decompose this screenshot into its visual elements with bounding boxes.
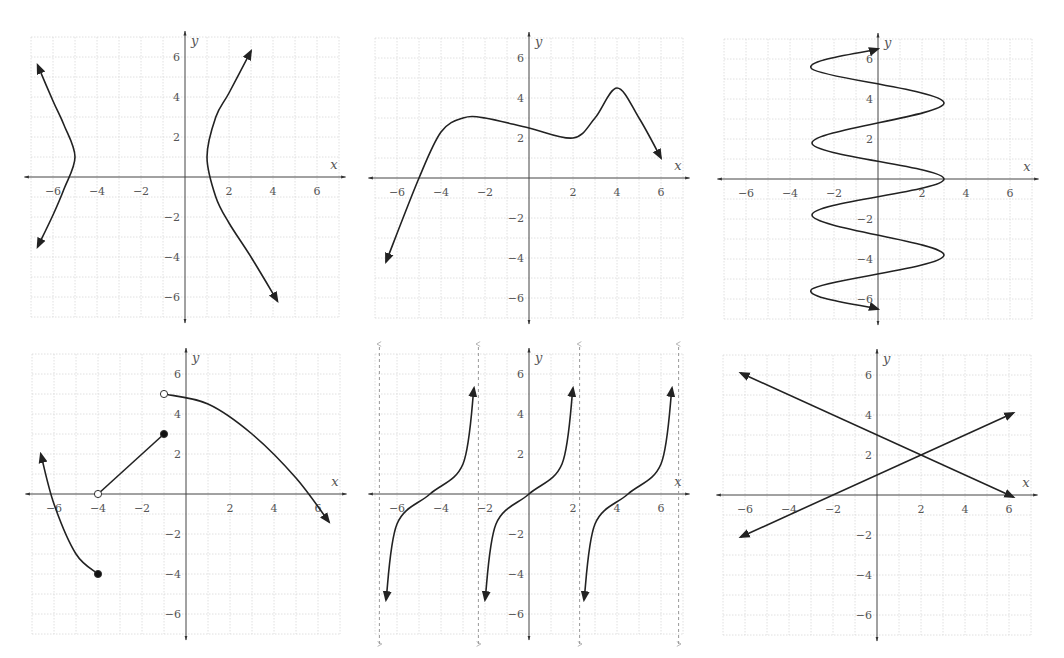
curve	[98, 434, 164, 494]
x-tick-label: −4	[89, 185, 105, 198]
x-tick-label: 4	[963, 187, 970, 200]
x-tick-label: −6	[389, 186, 405, 199]
y-tick-label: 6	[174, 368, 181, 381]
y-axis-label: y	[534, 34, 543, 49]
y-tick-label: 6	[517, 52, 524, 65]
y-tick-label: −4	[856, 569, 872, 582]
x-tick-label: 2	[570, 186, 577, 199]
x-tick-label: −4	[782, 187, 798, 200]
curve	[164, 394, 329, 522]
curve	[38, 65, 75, 247]
x-tick-label: −4	[433, 502, 449, 515]
x-tick-label: −6	[389, 502, 405, 515]
y-tick-label: 2	[866, 133, 873, 146]
x-tick-label: 6	[658, 502, 665, 515]
curve	[386, 88, 661, 262]
graph-panel-A: −6−4−2246642−2−4−6xy	[24, 31, 345, 323]
y-tick-label: 6	[866, 53, 873, 66]
x-tick-label: 4	[271, 502, 278, 515]
x-tick-label: 4	[962, 503, 969, 516]
x-tick-label: −2	[826, 187, 842, 200]
y-tick-label: −2	[165, 528, 181, 541]
y-tick-label: −6	[165, 608, 181, 621]
x-tick-label: 6	[1007, 187, 1014, 200]
x-axis-label: x	[1023, 159, 1031, 174]
x-axis-label: x	[331, 474, 339, 489]
x-axis-label: x	[330, 157, 338, 172]
y-tick-label: −4	[164, 251, 180, 264]
x-tick-label: 4	[614, 186, 621, 199]
y-tick-label: 4	[173, 91, 180, 104]
x-tick-label: 4	[270, 185, 277, 198]
curve	[207, 51, 277, 301]
y-tick-label: −2	[508, 212, 524, 225]
closed-point	[94, 570, 101, 577]
x-tick-label: −6	[45, 185, 61, 198]
y-tick-label: 4	[517, 408, 524, 421]
open-point	[94, 490, 101, 497]
x-tick-label: −4	[433, 186, 449, 199]
y-tick-label: 4	[517, 92, 524, 105]
x-tick-label: 2	[227, 502, 234, 515]
y-tick-label: 4	[865, 409, 872, 422]
graph-panel-B: −6−4−2246642−2−4−6xy	[368, 32, 689, 324]
x-tick-label: −6	[737, 503, 753, 516]
x-tick-label: 6	[314, 185, 321, 198]
y-axis-label: y	[534, 350, 543, 365]
x-tick-label: −4	[781, 503, 797, 516]
graph-panel-E: −6−4−2246642−2−4−6xy	[368, 344, 689, 644]
y-tick-label: 6	[173, 51, 180, 64]
x-tick-label: −2	[477, 186, 493, 199]
y-tick-label: −6	[856, 609, 872, 622]
graph-panel-D: −6−4−2246642−2−4−6xy	[25, 348, 346, 640]
y-tick-label: 2	[517, 132, 524, 145]
y-tick-label: 4	[866, 93, 873, 106]
y-tick-label: −4	[857, 253, 873, 266]
y-tick-label: −4	[508, 568, 524, 581]
graph-panel-C: −6−4−2246642−2−4−6xy	[717, 33, 1038, 325]
y-tick-label: −2	[856, 529, 872, 542]
y-axis-label: y	[191, 350, 200, 365]
x-tick-label: −2	[134, 502, 150, 515]
y-tick-label: −4	[508, 252, 524, 265]
x-tick-label: −2	[477, 502, 493, 515]
y-tick-label: −6	[164, 291, 180, 304]
x-tick-label: 6	[1006, 503, 1013, 516]
y-tick-label: 6	[865, 369, 872, 382]
y-tick-label: 4	[174, 408, 181, 421]
graph-panel-F: −6−4−2246642−2−4−6xy	[716, 349, 1037, 641]
y-tick-label: 6	[517, 368, 524, 381]
y-tick-label: −6	[857, 293, 873, 306]
y-tick-label: −2	[508, 528, 524, 541]
x-tick-label: 6	[658, 186, 665, 199]
x-tick-label: −2	[133, 185, 149, 198]
x-tick-label: −2	[825, 503, 841, 516]
y-tick-label: −2	[164, 211, 180, 224]
x-tick-label: 2	[570, 502, 577, 515]
x-axis-label: x	[674, 158, 682, 173]
y-tick-label: −6	[508, 608, 524, 621]
y-tick-label: 2	[173, 131, 180, 144]
y-tick-label: −2	[857, 213, 873, 226]
x-axis-label: x	[1022, 475, 1030, 490]
y-axis-label: y	[883, 35, 892, 50]
y-axis-label: y	[882, 351, 891, 366]
x-tick-label: 2	[226, 185, 233, 198]
y-tick-label: 2	[517, 448, 524, 461]
graphs-grid: −6−4−2246642−2−4−6xy−6−4−2246642−2−4−6xy…	[0, 0, 1064, 658]
x-tick-label: −4	[90, 502, 106, 515]
y-axis-label: y	[190, 33, 199, 48]
y-tick-label: −6	[508, 292, 524, 305]
y-tick-label: 2	[174, 448, 181, 461]
closed-point	[160, 430, 167, 437]
open-point	[160, 390, 167, 397]
y-tick-label: −4	[165, 568, 181, 581]
x-tick-label: −6	[738, 187, 754, 200]
x-tick-label: 2	[918, 503, 925, 516]
y-tick-label: 2	[865, 449, 872, 462]
